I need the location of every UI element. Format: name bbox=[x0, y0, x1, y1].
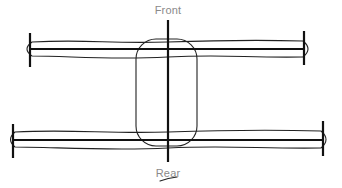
rear-label: Rear bbox=[156, 167, 181, 179]
vehicle-body-outline bbox=[136, 39, 197, 146]
axle-diagram bbox=[0, 0, 342, 188]
front-label: Front bbox=[155, 4, 182, 16]
